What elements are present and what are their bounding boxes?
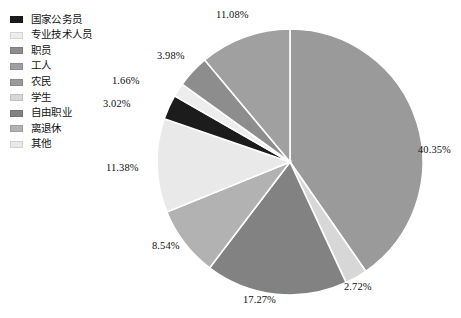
legend-color-swatch	[10, 141, 23, 148]
legend-color-swatch	[10, 94, 23, 101]
pie-value-label: 3.98%	[157, 51, 185, 62]
legend-color-swatch	[10, 79, 23, 86]
legend-item-label: 学生	[31, 93, 51, 104]
legend-color-swatch	[10, 47, 23, 54]
pie-value-label: 3.02%	[103, 99, 131, 110]
pie-value-label: 8.54%	[152, 241, 180, 252]
pie-value-label: 11.08%	[216, 10, 249, 21]
pie-value-label: 2.72%	[344, 282, 372, 293]
pie-value-label: 11.38%	[106, 163, 139, 174]
legend-color-swatch	[10, 63, 23, 70]
legend-item-label: 国家公务员	[31, 15, 82, 26]
legend-color-swatch	[10, 32, 23, 39]
legend-item-label: 农民	[31, 77, 51, 88]
legend-item[interactable]: 离退休	[10, 121, 138, 137]
legend-item-label: 自由职业	[31, 108, 72, 119]
legend-item[interactable]: 职员	[10, 43, 138, 59]
legend-item[interactable]: 其他	[10, 137, 138, 153]
legend-item-label: 专业技术人员	[31, 30, 92, 41]
legend-color-swatch	[10, 16, 23, 23]
pie-value-label: 1.66%	[112, 76, 140, 87]
legend-item-label: 其他	[31, 139, 51, 150]
pie-value-label: 40.35%	[418, 145, 451, 156]
legend-item-label: 职员	[31, 46, 51, 57]
pie-value-label: 17.27%	[243, 295, 276, 306]
pie-chart-figure: 国家公务员 专业技术人员 职员 工人 农民 学生 自由职业 离退休	[0, 0, 461, 318]
legend-item-label: 工人	[31, 61, 51, 72]
legend-item[interactable]: 专业技术人员	[10, 28, 138, 44]
legend-color-swatch	[10, 125, 23, 132]
pie-plot-area: 11.08%40.35%2.72%17.27%8.54%11.38%3.02%1…	[140, 0, 461, 318]
legend-item[interactable]: 国家公务员	[10, 12, 138, 28]
legend-item[interactable]: 工人	[10, 59, 138, 75]
legend-item-label: 离退休	[31, 124, 62, 135]
legend-color-swatch	[10, 110, 23, 117]
pie-svg	[140, 0, 461, 318]
